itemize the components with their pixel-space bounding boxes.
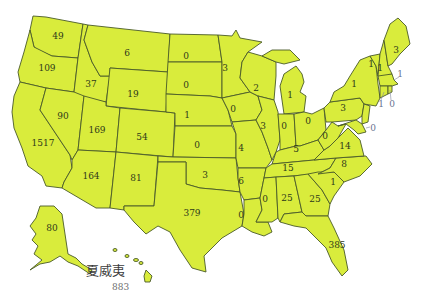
state-maine[interactable] (384, 18, 410, 66)
label-sd: 0 (183, 80, 189, 90)
label-fl: 385 (328, 240, 345, 250)
label-wa: 49 (52, 31, 64, 41)
label-ia: 0 (230, 104, 236, 114)
label-sc: 1 (330, 177, 336, 187)
label-mid-atlantic: 0 (370, 123, 376, 133)
label-nv: 90 (57, 111, 69, 121)
label-nc: 8 (341, 159, 347, 169)
state-michigan[interactable] (280, 66, 306, 114)
state-hawaii-island-1[interactable] (113, 249, 117, 252)
label-tx: 379 (183, 208, 200, 218)
label-ri: 0 (389, 99, 395, 109)
label-oh: 0 (305, 116, 311, 126)
label-nm: 81 (130, 173, 141, 183)
state-north-dakota[interactable] (168, 34, 222, 62)
state-new-jersey[interactable] (362, 104, 370, 124)
state-hawaii-island-4[interactable] (139, 262, 143, 265)
label-ky: 5 (293, 144, 299, 154)
label-ct: 1 (378, 99, 384, 109)
state-kansas[interactable] (173, 126, 236, 158)
label-id: 37 (85, 79, 97, 89)
label-ga: 25 (309, 194, 321, 204)
label-ma: 1 (397, 69, 403, 79)
label-ms: 0 (262, 194, 268, 204)
label-ak: 80 (46, 223, 58, 233)
label-la: 0 (238, 210, 244, 220)
label-nh: 1 (377, 63, 383, 73)
label-tn: 15 (282, 163, 294, 173)
label-nd: 0 (183, 51, 189, 61)
label-mt: 6 (124, 48, 130, 58)
state-massachusetts[interactable] (378, 74, 398, 86)
label-wy: 19 (127, 89, 139, 99)
label-mn: 3 (222, 63, 228, 73)
label-ks: 0 (194, 140, 200, 150)
label-ne: 1 (184, 110, 190, 120)
us-map: 49 109 1517 37 90 6 19 169 164 54 81 0 0… (0, 0, 421, 302)
label-pa: 3 (340, 103, 346, 113)
label-ok: 3 (202, 170, 208, 180)
label-wv: 0 (322, 131, 328, 141)
label-ca: 1517 (32, 138, 55, 148)
state-south-dakota[interactable] (166, 62, 222, 98)
label-il: 3 (260, 121, 266, 131)
label-al: 25 (281, 193, 293, 203)
label-co: 54 (136, 132, 148, 142)
label-mi: 1 (287, 90, 293, 100)
state-alaska[interactable] (30, 206, 92, 274)
label-mo: 4 (238, 143, 244, 153)
hawaii-title: 夏威夷 (86, 260, 125, 279)
label-az: 164 (82, 171, 99, 181)
label-ut: 169 (88, 125, 105, 135)
label-va: 14 (339, 141, 351, 151)
label-vt: 1 (368, 59, 374, 69)
label-or: 109 (38, 63, 55, 73)
state-hawaii-island-2[interactable] (125, 255, 129, 258)
label-in: 0 (281, 121, 287, 131)
label-ny: 1 (351, 79, 357, 89)
state-hawaii-island-3[interactable] (134, 259, 139, 262)
state-hawaii-big-island[interactable] (144, 270, 152, 282)
label-wi: 2 (253, 83, 259, 93)
hawaii-value: 883 (112, 282, 129, 292)
label-me: 3 (393, 45, 399, 55)
label-ar: 6 (238, 176, 244, 186)
